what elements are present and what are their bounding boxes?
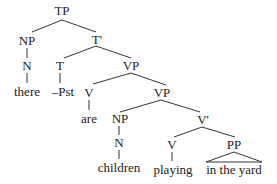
node-np: NP [19,34,36,48]
tree-edges [0,0,277,184]
edge-tp-tbar [62,20,96,32]
pp-triangle [206,152,262,162]
node-vp-inner: VP [154,86,171,100]
edge-tbar-t [64,46,96,58]
node-tbar: T' [92,33,102,47]
word-playing: playing [154,163,193,177]
edge-vp-vp [131,73,166,85]
edge-vbar-pp [202,127,235,137]
node-n-children: N [114,136,123,150]
node-pp: PP [227,138,241,152]
edge-vp-v [93,73,131,84]
word-pst: –Pst [52,85,74,99]
edge-vbar-v [174,127,202,137]
node-t: T [56,59,64,73]
word-children: children [98,161,141,175]
node-n: N [22,59,31,73]
word-there: there [14,85,40,99]
edge-tp-np [32,20,62,32]
node-vbar: V' [197,113,209,127]
node-v-playing: V [167,138,176,152]
node-tp: TP [54,4,69,18]
edge-vp-vbar [161,100,200,112]
node-np-children: NP [112,112,129,126]
node-v: V [84,86,93,100]
word-are: are [81,112,97,126]
node-vp: VP [123,59,140,73]
edge-tbar-vp [96,46,131,58]
word-in-the-yard: in the yard [206,163,262,177]
